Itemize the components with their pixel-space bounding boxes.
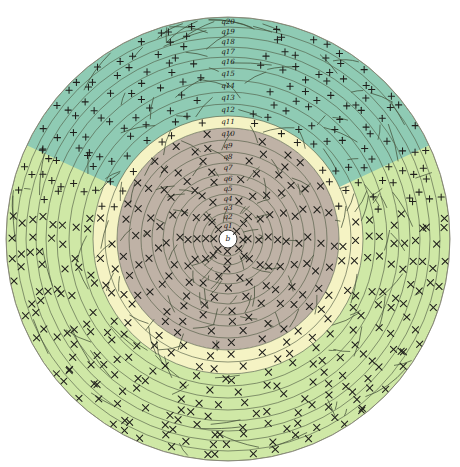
ring-label-q11: q11 <box>221 117 235 126</box>
ring-label-q19: q19 <box>221 27 235 36</box>
ring-label-q9: q9 <box>223 141 233 150</box>
ring-label-q2: q2 <box>223 212 233 221</box>
ring-label-q17: q17 <box>221 47 235 56</box>
ring-label-q20: q20 <box>221 17 235 26</box>
ring-label-q12: q12 <box>221 105 235 114</box>
ring-label-q5: q5 <box>223 184 233 193</box>
center-node-label: b <box>226 234 231 243</box>
ring-label-q6: q6 <box>223 174 233 183</box>
radial-ring-svg: bq1q2q3q4q5q6q7q8q9q10q11q12q13q14q15q16… <box>0 0 460 467</box>
radial-diagram-canvas: bq1q2q3q4q5q6q7q8q9q10q11q12q13q14q15q16… <box>0 0 460 467</box>
ring-label-q3: q3 <box>223 203 233 212</box>
ring-label-q15: q15 <box>221 69 235 78</box>
ring-label-q10: q10 <box>221 129 235 138</box>
ring-label-q14: q14 <box>221 81 235 90</box>
ring-label-q7: q7 <box>223 163 233 172</box>
ring-label-q13: q13 <box>221 93 235 102</box>
ring-label-q8: q8 <box>223 152 233 161</box>
ring-label-q16: q16 <box>221 57 235 66</box>
ring-label-q4: q4 <box>223 194 233 203</box>
ring-label-q18: q18 <box>221 37 235 46</box>
ring-label-q1: q1 <box>223 221 232 230</box>
